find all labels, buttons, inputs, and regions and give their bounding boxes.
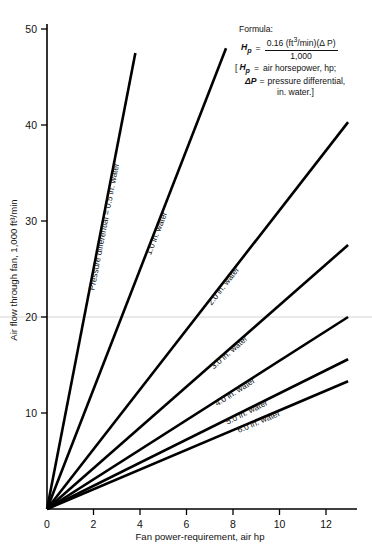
x-tick-label-8: 8 [230,518,236,530]
formula-heading: Formula: [239,24,371,35]
curve-4-in-water [47,317,348,509]
y-tick-label-30: 30 [25,215,37,227]
curve-label-2-in-water: 2.0 in. water [205,265,241,307]
x-tick-label-4: 4 [137,518,143,530]
y-axis-title: Air flow through fan, 1,000 ft³/min [8,199,19,340]
curve-labels: Pressure differential = 0.5 in. water1.0… [86,162,281,435]
formula-box: Formula: Hp = 0.16 (ft3/min)(Δ P) 1,000 … [235,24,371,99]
formula-fraction: 0.16 (ft3/min)(Δ P) 1,000 [265,35,338,62]
x-axis-ticks: 024681012 [44,509,332,530]
formula-main-equation: Hp = 0.16 (ft3/min)(Δ P) 1,000 [241,35,371,62]
formula-def2-text: pressure differential, [268,76,346,87]
formula-numerator: 0.16 (ft3/min)(Δ P) [265,35,338,50]
curve-label-0-5-in-water: Pressure differential = 0.5 in. water [86,162,121,291]
x-tick-label-6: 6 [184,518,190,530]
curve-5-in-water [47,359,348,509]
y-tick-label-50: 50 [25,23,37,35]
formula-def2-equals: = [260,76,265,87]
formula-def-dp: ΔP = pressure differential, [245,76,371,87]
curve-1-in-water [47,48,226,509]
formula-denominator: 1,000 [265,51,338,62]
y-tick-label-20: 20 [25,311,37,323]
y-tick-label-40: 40 [25,119,37,131]
formula-def1-symbol: Hp [239,62,250,76]
curve-6-in-water [47,381,348,509]
curve-label-4-in-water: 4.0 in. water [213,375,257,408]
curve-label-3-in-water: 3.0 in. water [208,333,249,371]
curve-2-in-water [47,122,348,509]
formula-def3-text: in. water.] [277,87,371,98]
x-tick-label-12: 12 [320,518,332,530]
curve-label-1-in-water: 1.0 in. water [143,210,169,256]
y-tick-label-10: 10 [25,407,37,419]
formula-equals: = [256,43,261,54]
formula-bracket-open: [ [235,63,237,74]
x-tick-label-0: 0 [44,518,50,530]
x-axis-title: Fan power-requirement, air hp [135,531,264,542]
formula-def2-symbol: ΔP [245,76,257,87]
formula-def-hp: [ Hp = air horsepower, hp; [235,62,371,76]
x-tick-label-10: 10 [274,518,286,530]
formula-hp-symbol: Hp [241,42,252,56]
x-tick-label-2: 2 [91,518,97,530]
formula-def1-equals: = [254,63,259,74]
formula-def1-text: air horsepower, hp; [263,63,336,74]
y-axis-ticks: 1020304050 [25,23,47,419]
chart-figure: 024681012 1020304050 Pressure differenti… [0,0,372,555]
